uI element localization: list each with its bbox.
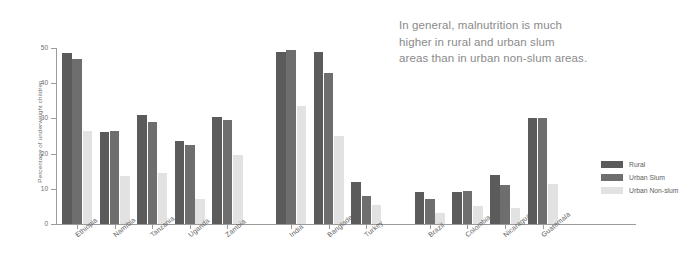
bar-ethiopia-urban-slum [72,59,82,224]
bar-india-urban-non-slum [297,106,307,224]
y-tick-label-0: 0 [28,220,48,227]
legend-label: Urban Non-slum [629,187,678,194]
y-tick-20 [51,154,57,155]
bar-india-urban-slum [286,50,296,224]
y-tick-label-20: 20 [28,150,48,157]
legend-item-urban-slum[interactable]: Urban Slum [601,171,678,183]
bar-bangladesh-urban-non-slum [334,136,344,224]
bar-chart: Percentage of underweight children 01020… [0,0,691,278]
legend-swatch-icon [601,187,623,194]
y-tick-50 [51,48,57,49]
bar-ethiopia-rural [62,53,72,224]
y-tick-10 [51,189,57,190]
legend-label: Urban Slum [629,174,665,181]
bar-turkey-urban-slum [362,196,372,224]
chart-legend: RuralUrban SlumUrban Non-slum [601,158,678,197]
y-tick-0 [51,224,57,225]
bar-tanzania-urban-non-slum [158,173,168,224]
bar-colombia-urban-slum [463,191,473,224]
bar-namibia-urban-non-slum [120,176,130,224]
bar-tanzania-urban-slum [148,122,158,224]
legend-item-rural[interactable]: Rural [601,158,678,170]
bar-zambia-urban-non-slum [233,155,243,224]
legend-item-urban-non-slum[interactable]: Urban Non-slum [601,184,678,196]
bar-nicaragua-rural [490,175,500,224]
bar-india-rural [276,52,286,224]
bar-namibia-urban-slum [110,131,120,224]
y-tick-label-10: 10 [28,185,48,192]
bar-uganda-rural [175,141,185,224]
bar-bangladesh-rural [314,52,324,224]
bar-guatemala-rural [528,118,538,224]
legend-swatch-icon [601,161,623,168]
bar-colombia-rural [452,192,462,224]
bar-bangladesh-urban-slum [324,73,334,224]
y-tick-label-30: 30 [28,114,48,121]
bar-guatemala-urban-slum [538,118,548,224]
bar-brazil-rural [415,192,425,224]
bar-nicaragua-urban-slum [500,185,510,224]
bar-namibia-rural [100,132,110,224]
bar-zambia-rural [212,117,222,224]
legend-swatch-icon [601,174,623,181]
bar-uganda-urban-slum [185,145,195,224]
bar-brazil-urban-slum [425,199,435,224]
bar-tanzania-rural [137,115,147,224]
bar-ethiopia-urban-non-slum [83,131,93,224]
y-axis-line [56,48,57,225]
y-tick-40 [51,83,57,84]
legend-label: Rural [629,161,645,168]
y-tick-label-40: 40 [28,79,48,86]
y-tick-label-50: 50 [28,44,48,51]
y-tick-30 [51,118,57,119]
bar-zambia-urban-slum [223,120,233,224]
